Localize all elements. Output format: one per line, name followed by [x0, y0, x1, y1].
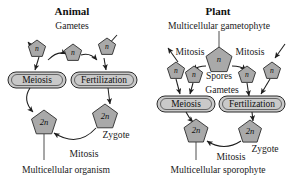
animal-gametes-label: Gametes — [55, 20, 89, 31]
animal-organism-caption: Multicellular organism — [22, 164, 111, 175]
animal-mitosis-label: Mitosis — [70, 148, 99, 159]
plant-gametophyte-caption: Multicellular gametophyte — [168, 20, 270, 31]
plant-sporophyte-caption: Multicellular sporophyte — [170, 164, 265, 175]
plant-meiosis-label: Meiosis — [171, 99, 201, 109]
animal-haploid-left-label: n — [35, 44, 39, 53]
plant-gamete-outer-label: n — [270, 66, 274, 75]
plant-fertilization-box[interactable]: Fertilization — [219, 96, 285, 112]
animal-fertilization-label: Fertilization — [81, 75, 127, 85]
animal-organism-ploidy: 2n — [40, 117, 49, 127]
plant-mitosis-bottom-label: Mitosis — [217, 151, 246, 162]
animal-haploid-right-label: n — [105, 42, 109, 51]
plant-gametophyte-ploidy: n — [217, 54, 221, 64]
plant-spore-inner-label: n — [192, 70, 196, 79]
plant-zygote-label: Zygote — [251, 143, 278, 154]
plant-mitosis-right-label: Mitosis — [236, 46, 265, 57]
plant-gamete-inner-label: n — [245, 70, 249, 79]
plant-sporophyte-ploidy: 2n — [192, 125, 201, 135]
plant-spores-label: Spores — [206, 70, 232, 81]
animal-zygote-ploidy: 2n — [101, 111, 110, 121]
animal-fertilization-box[interactable]: Fertilization — [71, 72, 137, 88]
animal-meiosis-box[interactable]: Meiosis — [8, 72, 66, 88]
animal-zygote-label: Zygote — [102, 129, 129, 140]
life-cycle-diagram: Animal Gametes n n n — [0, 0, 289, 184]
animal-meiosis-label: Meiosis — [22, 75, 52, 85]
plant-zygote-ploidy: 2n — [246, 126, 255, 136]
life-cycle-svg: Animal Gametes n n n — [0, 0, 289, 184]
plant-mitosis-left-label: Mitosis — [176, 46, 205, 57]
animal-title: Animal — [55, 5, 90, 17]
plant-gametes-label: Gametes — [205, 84, 239, 95]
plant-title: Plant — [205, 5, 230, 17]
plant-fertilization-label: Fertilization — [229, 99, 275, 109]
animal-haploid-center-label: n — [71, 48, 75, 57]
plant-meiosis-box[interactable]: Meiosis — [157, 96, 215, 112]
plant-spore-outer-label: n — [174, 66, 178, 75]
